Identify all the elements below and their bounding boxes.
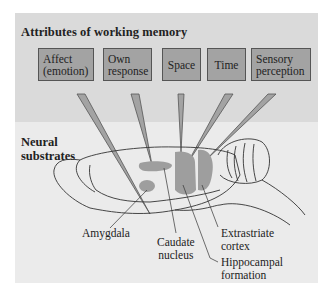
label-line1: Caudate xyxy=(157,236,195,249)
box-label-line2: perception xyxy=(256,65,310,77)
attribute-box-own-response: Own response xyxy=(103,48,152,81)
label-line2: formation xyxy=(221,269,283,282)
box-label-line2: response xyxy=(108,65,151,77)
box-label-line1: Space xyxy=(168,59,195,71)
label-line2: nucleus xyxy=(157,249,195,262)
label-line2: cortex xyxy=(221,240,274,253)
label-caudate-nucleus: Caudate nucleus xyxy=(157,236,195,261)
attribute-box-time: Time xyxy=(207,48,246,81)
own-response-pointer xyxy=(131,94,152,165)
space-pointer xyxy=(178,94,184,152)
label-line1: Hippocampal xyxy=(221,256,283,269)
attribute-box-affect: Affect (emotion) xyxy=(38,48,94,81)
box-label-line1: Affect xyxy=(43,53,93,65)
label-line1: Extrastriate xyxy=(221,227,274,240)
label-extrastriate-cortex: Extrastriate cortex xyxy=(221,227,274,252)
box-label-line1: Own xyxy=(108,53,151,65)
box-label-line1: Sensory xyxy=(256,53,310,65)
attribute-box-sensory-perception: Sensory perception xyxy=(251,48,311,81)
attribute-box-space: Space xyxy=(162,48,201,81)
box-label-line2: (emotion) xyxy=(43,65,93,77)
caudate-region xyxy=(139,161,172,171)
hippocampal-region xyxy=(175,151,196,194)
time-pointer xyxy=(187,94,233,164)
label-line1: Amygdala xyxy=(82,227,130,240)
box-label-line1: Time xyxy=(215,59,239,71)
label-hippocampal-formation: Hippocampal formation xyxy=(221,256,283,281)
label-amygdala: Amygdala xyxy=(82,227,130,240)
